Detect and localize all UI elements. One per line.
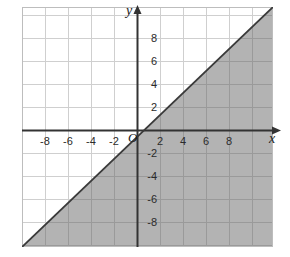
x-tick-label-2: 2 — [157, 136, 163, 147]
y-tick-label-2: 2 — [133, 102, 157, 113]
x-tick-label-4: 4 — [180, 136, 186, 147]
y-tick-label-neg6: -6 — [133, 194, 157, 205]
origin-label: O — [128, 131, 137, 144]
y-tick-label-neg8: -8 — [133, 217, 157, 228]
x-axis-label: x — [269, 132, 275, 146]
coordinate-plane-figure: -8 -6 -4 -2 2 4 6 8 2 4 6 8 -2 -4 -6 -8 … — [0, 0, 290, 257]
x-tick-label-neg4: -4 — [86, 136, 96, 147]
y-tick-label-neg2: -2 — [133, 148, 157, 159]
y-tick-label-6: 6 — [133, 56, 157, 67]
x-tick-label-8: 8 — [226, 136, 232, 147]
x-tick-label-neg2: -2 — [109, 136, 119, 147]
y-tick-label-4: 4 — [133, 79, 157, 90]
x-tick-label-6: 6 — [203, 136, 209, 147]
y-tick-label-8: 8 — [133, 33, 157, 44]
y-tick-label-neg4: -4 — [133, 171, 157, 182]
x-tick-label-neg6: -6 — [63, 136, 73, 147]
x-tick-label-neg8: -8 — [40, 136, 50, 147]
y-axis-label: y — [126, 4, 132, 18]
